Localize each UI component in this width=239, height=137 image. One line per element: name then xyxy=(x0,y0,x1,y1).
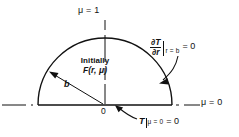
initial-condition-function: F(r, μ) xyxy=(66,66,124,75)
temperature-symbol: T xyxy=(139,117,145,126)
origin-label: 0 xyxy=(101,107,106,116)
initial-condition-line1: Initially xyxy=(81,56,109,65)
derivative-denominator: ∂r xyxy=(150,47,161,57)
neumann-boundary-condition: ∂T ∂r r = b = 0 xyxy=(150,38,195,56)
neumann-subscript: r = b xyxy=(165,48,179,56)
derivative-numerator: ∂T xyxy=(150,38,161,47)
dirichlet-equals: = 0 xyxy=(166,117,179,126)
partial-derivative-fraction: ∂T ∂r xyxy=(150,38,161,56)
radius-arrowhead xyxy=(49,72,59,79)
radius-label: b xyxy=(64,80,70,89)
evaluation-bar-icon xyxy=(163,41,164,56)
dirichlet-subscript: μ = 0 xyxy=(148,119,164,127)
axis-label-mu-right: μ = 0 xyxy=(201,98,222,107)
dirichlet-arrowhead xyxy=(115,105,123,112)
initial-condition-label: Initially F(r, μ) xyxy=(66,57,124,75)
axis-label-mu-top: μ = 1 xyxy=(78,6,99,15)
neumann-equals: = 0 xyxy=(183,42,196,51)
evaluation-bar-icon-2 xyxy=(146,118,147,128)
dirichlet-leader-line xyxy=(119,108,137,119)
radius-arrow-line xyxy=(53,74,103,104)
dirichlet-boundary-condition: T μ = 0 = 0 xyxy=(139,117,179,127)
